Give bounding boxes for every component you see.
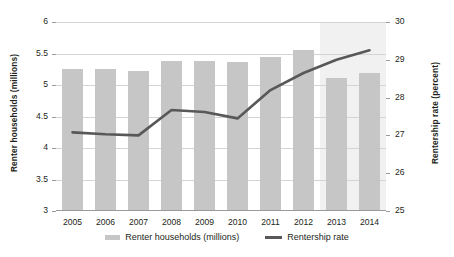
x-tick-label: 2014: [353, 217, 387, 227]
legend-item-renter-households: Renter households (millions): [105, 232, 239, 242]
y-axis-right-title: Rentership rate (percent): [430, 38, 440, 188]
y-right-tickmark: [386, 22, 390, 23]
x-tick-label: 2010: [221, 217, 255, 227]
y-right-tick-label: 27: [395, 129, 421, 139]
y-right-tickmark: [386, 60, 390, 61]
x-tick-label: 2008: [155, 217, 189, 227]
x-axis-baseline: [56, 210, 386, 211]
legend-label-rentership-rate: Rentership rate: [287, 232, 349, 242]
y-left-tick-label: 6: [22, 16, 48, 26]
y-right-tick-label: 28: [395, 92, 421, 102]
y-right-tick-label: 29: [395, 54, 421, 64]
x-tick-label: 2013: [320, 217, 354, 227]
x-tick-label: 2005: [56, 217, 90, 227]
y-left-tickmark: [52, 211, 56, 212]
line-series: [56, 22, 386, 211]
chart-legend: Renter households (millions) Rentership …: [0, 232, 454, 242]
y-left-tick-label: 4: [22, 142, 48, 152]
x-tick-label: 2009: [188, 217, 222, 227]
rentership-rate-line: [73, 50, 370, 135]
bar-swatch-icon: [105, 235, 120, 240]
y-left-tick-label: 5: [22, 79, 48, 89]
x-tick-label: 2007: [122, 217, 156, 227]
y-axis-left-title: Renter households (millions): [9, 38, 19, 188]
x-tick-label: 2011: [254, 217, 288, 227]
plot-area: [56, 22, 386, 211]
y-right-tickmark: [386, 211, 390, 212]
y-left-tick-label: 4.5: [22, 111, 48, 121]
y-right-tickmark: [386, 173, 390, 174]
x-tick-label: 2012: [287, 217, 321, 227]
y-right-tick-label: 25: [395, 205, 421, 215]
y-right-tickmark: [386, 98, 390, 99]
chart-container: Renter households (millions) Rentership …: [0, 0, 454, 257]
y-left-tick-label: 3.5: [22, 174, 48, 184]
y-right-tickmark: [386, 135, 390, 136]
y-left-tick-label: 5.5: [22, 48, 48, 58]
x-tick-label: 2006: [89, 217, 123, 227]
line-swatch-icon: [265, 236, 282, 239]
y-left-tick-label: 3: [22, 205, 48, 215]
y-right-tick-label: 30: [395, 16, 421, 26]
legend-label-renter-households: Renter households (millions): [125, 232, 239, 242]
legend-item-rentership-rate: Rentership rate: [265, 232, 349, 242]
y-right-tick-label: 26: [395, 167, 421, 177]
